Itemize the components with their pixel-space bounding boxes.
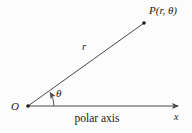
angle-label: θ — [56, 87, 62, 99]
radius-ray-line — [28, 23, 144, 106]
point-label: P(r, θ) — [148, 4, 177, 17]
polar-axis-caption: polar axis — [74, 112, 120, 125]
origin-label: O — [11, 100, 19, 112]
x-axis-label: x — [173, 111, 179, 122]
origin-dot — [26, 104, 30, 108]
point-dot — [142, 21, 146, 25]
diagram-canvas: P(r, θ) r θ O polar axis x — [0, 0, 192, 133]
angle-arc — [50, 93, 54, 106]
polar-coordinates-diagram: P(r, θ) r θ O polar axis x — [0, 0, 192, 133]
radius-label: r — [82, 40, 87, 52]
